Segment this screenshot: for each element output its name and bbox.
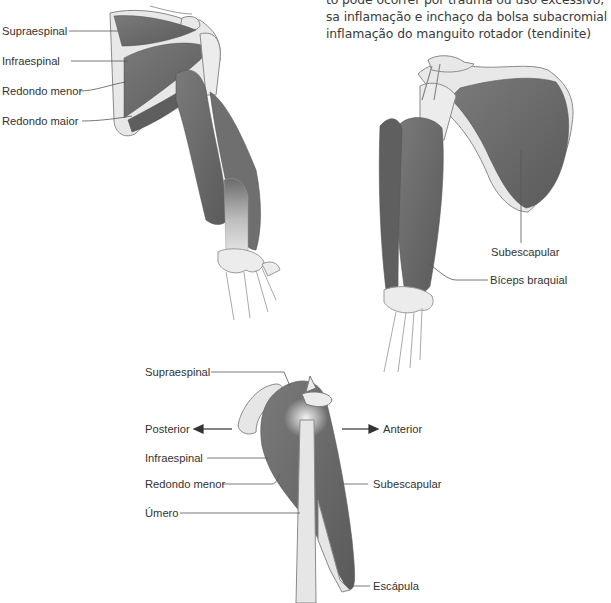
label-subescapular-anterior: Subescapular xyxy=(491,246,559,259)
label-biceps-braquial: Bíceps braquial xyxy=(490,274,567,287)
label-umero: Úmero xyxy=(145,507,179,520)
label-subescapular-lateral: Subescapular xyxy=(373,478,441,491)
label-infraespinal-lateral: Infraespinal xyxy=(145,452,203,465)
arrow-left-icon xyxy=(194,425,203,433)
figure-lateral-shoulder xyxy=(238,376,355,603)
label-redondo-menor-posterior: Redondo menor xyxy=(2,85,82,98)
arrow-right-icon xyxy=(369,425,378,433)
label-redondo-maior: Redondo maior xyxy=(2,115,79,128)
label-redondo-menor-lateral: Redondo menor xyxy=(145,478,225,491)
label-posterior: Posterior xyxy=(145,423,190,436)
label-anterior: Anterior xyxy=(383,423,422,436)
label-infraespinal-posterior: Infraespinal xyxy=(2,55,60,68)
label-supraespinal-lateral: Supraespinal xyxy=(145,366,210,379)
label-supraespinal-posterior: Supraespinal xyxy=(2,25,67,38)
figure-anterior-arm xyxy=(379,56,573,372)
label-escapula: Escápula xyxy=(373,580,419,593)
figure-posterior-arm xyxy=(110,6,280,320)
